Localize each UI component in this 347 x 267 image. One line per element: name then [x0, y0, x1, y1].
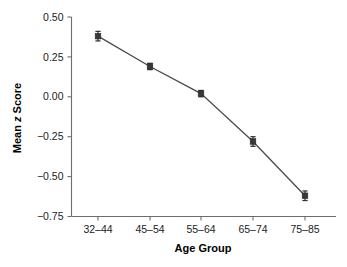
y-tick-label: 0.00 [43, 90, 64, 102]
y-tick-label: −0.25 [37, 130, 64, 142]
y-axis-title: Mean z Score [11, 83, 23, 153]
data-point-marker [250, 139, 256, 145]
line-chart: 0.500.250.00−0.25−0.50−0.75 Mean z Score… [0, 0, 347, 267]
chart-figure: 0.500.250.00−0.25−0.50−0.75 Mean z Score… [0, 0, 347, 267]
y-tick-label: 0.25 [43, 51, 64, 63]
data-point-marker [302, 193, 308, 199]
x-tick-label: 65–74 [238, 223, 267, 235]
y-axis-title-prefix: Mean [11, 122, 23, 153]
x-tick-label: 32–44 [83, 223, 112, 235]
x-tick-label: 55–64 [186, 223, 215, 235]
y-tick-label: 0.50 [43, 11, 64, 23]
data-point-marker [95, 33, 101, 39]
y-axis-title-suffix: Score [11, 83, 23, 117]
y-tick-label: −0.50 [37, 170, 64, 182]
data-point-marker [198, 91, 204, 97]
y-tick-label: −0.75 [37, 210, 64, 222]
data-point-marker [147, 64, 153, 70]
x-tick-label: 45–54 [135, 223, 164, 235]
x-tick-label: 75–85 [290, 223, 319, 235]
x-axis-title: Age Group [175, 242, 232, 254]
